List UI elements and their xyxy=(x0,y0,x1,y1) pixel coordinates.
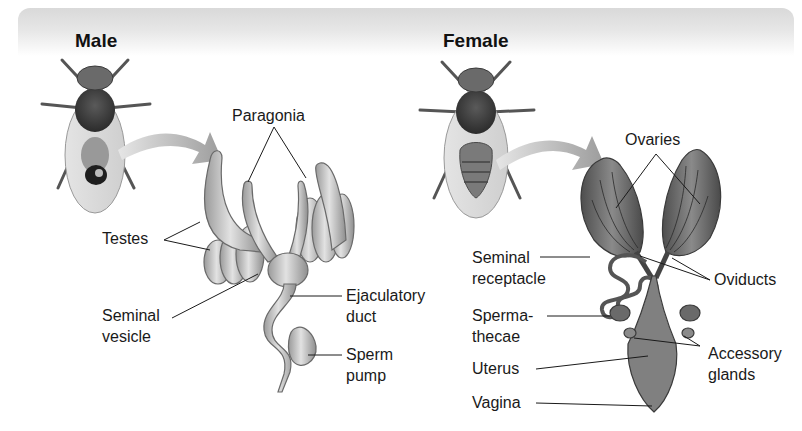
label-sperm-pump-line2: pump xyxy=(346,366,386,385)
label-paragonia: Paragonia xyxy=(232,106,305,125)
label-uterus: Uterus xyxy=(472,359,519,378)
female-organ-illustration xyxy=(581,149,721,412)
female-fly-illustration xyxy=(420,62,534,218)
label-seminal-receptacle-line2: receptacle xyxy=(472,269,546,288)
female-arrow xyxy=(496,136,604,170)
label-oviducts: Oviducts xyxy=(714,270,776,289)
label-ejaculatory-duct-line1: Ejaculatory xyxy=(346,286,425,305)
label-vagina: Vagina xyxy=(472,393,521,412)
label-ovaries: Ovaries xyxy=(625,130,680,149)
label-ejaculatory-duct-line2: duct xyxy=(346,307,376,326)
male-panel-title: Male xyxy=(75,30,117,52)
label-accessory-glands-line2: glands xyxy=(708,365,755,384)
label-seminal-vesicle-line1: Seminal xyxy=(102,306,160,325)
male-fly-illustration xyxy=(42,60,150,213)
label-accessory-glands-line1: Accessory xyxy=(708,344,782,363)
diagram-artwork xyxy=(0,0,802,431)
female-panel-title: Female xyxy=(443,30,508,52)
male-arrow xyxy=(118,132,222,164)
male-organ-illustration xyxy=(204,151,354,392)
label-seminal-receptacle-line1: Seminal xyxy=(472,248,530,267)
label-spermathecae-line2: thecae xyxy=(472,327,520,346)
label-seminal-vesicle-line2: vesicle xyxy=(102,327,151,346)
label-testes: Testes xyxy=(102,229,148,248)
label-sperm-pump-line1: Sperm xyxy=(346,345,393,364)
label-spermathecae-line1: Sperma- xyxy=(472,306,533,325)
